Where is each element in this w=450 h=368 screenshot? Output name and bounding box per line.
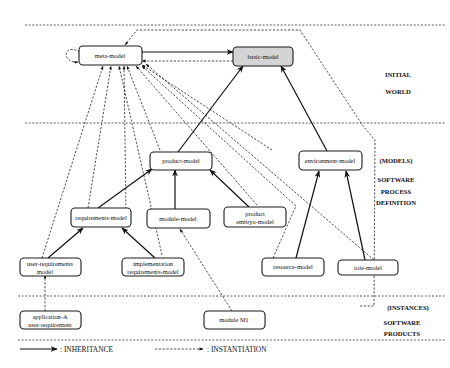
legend-instantiation-label: : INSTANTIATION bbox=[207, 345, 267, 354]
node-label: requirements-model bbox=[127, 268, 179, 275]
layer-label-initial: INITIAL WORLD bbox=[385, 71, 412, 95]
edge-product-to-basic bbox=[178, 66, 243, 152]
layer-label-line: WORLD bbox=[385, 88, 411, 95]
node-basic-model[interactable]: basic-model bbox=[233, 47, 293, 66]
node-environment-model[interactable]: environment-model bbox=[299, 151, 362, 170]
node-label: user-requirement bbox=[28, 321, 72, 328]
node-label: role-model bbox=[354, 264, 382, 271]
node-label: requirements-model bbox=[75, 214, 127, 221]
node-product-model[interactable]: product-model bbox=[150, 152, 212, 170]
node-label: model bbox=[37, 268, 53, 275]
node-label: product bbox=[245, 210, 265, 217]
node-label: user-requirements bbox=[27, 260, 74, 267]
node-label: basic-model bbox=[247, 53, 278, 60]
layer-label-line: DEFINITION bbox=[376, 199, 416, 206]
layer-label-line: SOFTWARE bbox=[377, 176, 415, 183]
node-module-model[interactable]: module-model bbox=[147, 209, 210, 228]
node-application-a-user-requirement[interactable]: application-A user-requirement bbox=[20, 311, 81, 329]
node-label: module M1 bbox=[219, 316, 249, 323]
layer-label-line: (MODELS) bbox=[380, 157, 413, 165]
node-resource-model[interactable]: resource-model bbox=[262, 258, 324, 276]
layer-label-line: PROCESS bbox=[381, 188, 412, 195]
node-role-model[interactable]: role-model bbox=[338, 260, 398, 275]
edge-userreq-to-req bbox=[48, 228, 83, 258]
node-label: embryo-model bbox=[236, 218, 274, 225]
legend: : INHERITANCE : INSTANTIATION bbox=[20, 345, 267, 354]
node-module-m1[interactable]: module M1 bbox=[204, 311, 265, 329]
legend-inheritance-label: : INHERITANCE bbox=[60, 345, 113, 354]
edge-role-to-env bbox=[346, 171, 365, 260]
legend-instantiation: : INSTANTIATION bbox=[155, 345, 267, 354]
layer-label-instances: (INSTANCES) SOFTWARE PRODUCTS bbox=[383, 304, 428, 337]
node-label: product-model bbox=[162, 157, 200, 164]
layer-label-line: INITIAL bbox=[385, 71, 412, 78]
node-label: module-model bbox=[159, 215, 196, 222]
edge-req-to-product bbox=[98, 169, 152, 208]
edge-req-to-meta bbox=[88, 66, 111, 208]
layer-label-line: PRODUCTS bbox=[384, 330, 421, 337]
edge-meta-self bbox=[66, 49, 80, 62]
layer-label-line: SOFTWARE bbox=[383, 319, 421, 326]
layer-label-line: (INSTANCES) bbox=[387, 304, 429, 312]
edge-m1-to-module bbox=[180, 229, 232, 311]
edge-userreq-to-meta bbox=[42, 66, 103, 258]
node-label: environment-model bbox=[305, 157, 356, 164]
layer-label-models: (MODELS) SOFTWARE PROCESS DEFINITION bbox=[376, 157, 416, 206]
node-product-embryo-model[interactable]: product embryo-model bbox=[224, 207, 286, 227]
edge-embryo-to-product bbox=[210, 170, 249, 207]
edge-product-to-meta bbox=[127, 66, 160, 150]
node-requirements-model[interactable]: requirements-model bbox=[71, 208, 131, 227]
node-implementation-requirements-model[interactable]: implementation requirements-model bbox=[122, 258, 184, 276]
edge-env-to-basic bbox=[281, 66, 327, 151]
node-label: application-A bbox=[32, 313, 68, 320]
edge-implreq-to-req bbox=[122, 228, 155, 258]
node-label: implementation bbox=[133, 260, 174, 267]
node-label: meta-model bbox=[95, 52, 126, 59]
edge-resource-to-env bbox=[296, 171, 319, 258]
edge-env-to-meta bbox=[142, 65, 272, 150]
layered-model-diagram: INITIAL WORLD (MODELS) SOFTWARE PROCESS … bbox=[0, 0, 450, 368]
node-meta-model[interactable]: meta-model bbox=[79, 46, 142, 65]
node-user-requirements-model[interactable]: user-requirements model bbox=[20, 258, 81, 276]
legend-inheritance: : INHERITANCE bbox=[20, 345, 113, 354]
node-label: resource-model bbox=[273, 263, 313, 270]
